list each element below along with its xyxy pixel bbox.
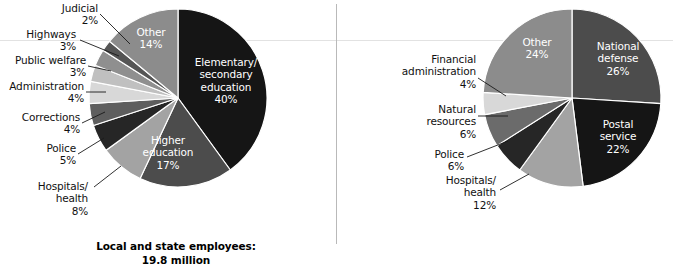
leader-financial-administration — [478, 78, 506, 96]
leader-hospitals-health — [94, 166, 121, 187]
right-leader-lines — [336, 0, 673, 276]
leader-police — [78, 138, 104, 154]
leader-police-federal — [467, 141, 508, 157]
leader-judicial — [100, 14, 130, 44]
pie-chart-figure: Elementary/ secondary education 40% High… — [0, 0, 673, 276]
leader-public-welfare — [88, 66, 111, 71]
left-chart-panel: Elementary/ secondary education 40% High… — [0, 0, 336, 276]
left-leader-lines — [0, 0, 336, 276]
left-chart-caption: Local and state employees: 19.8 million — [56, 240, 296, 267]
leader-hospitals-health-federal — [500, 174, 529, 190]
leader-corrections — [82, 112, 105, 123]
right-chart-panel: National defense 26% Postal service 22% … — [336, 0, 673, 276]
leader-highways — [80, 40, 119, 56]
